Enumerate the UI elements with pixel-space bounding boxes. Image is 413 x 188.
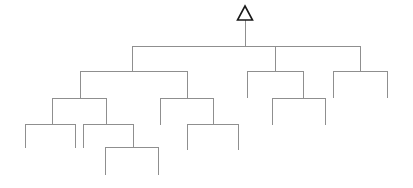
dendrogram-figure [0, 0, 413, 188]
figure-background [0, 0, 413, 188]
dendrogram-canvas [0, 0, 413, 188]
